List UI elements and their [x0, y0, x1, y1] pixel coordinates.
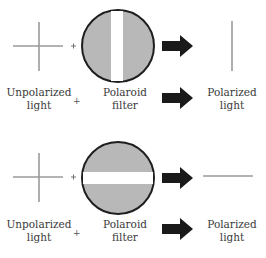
unpolarized-light-label: Unpolarized light	[4, 86, 74, 112]
label-line: light	[4, 99, 74, 112]
polarized-light-label: Polarized light	[199, 218, 265, 244]
plus-sign-icon	[71, 175, 76, 180]
label-line: Polarized	[199, 86, 265, 99]
polarized-light-label: Polarized light	[199, 86, 265, 112]
label-line: filter	[95, 231, 155, 244]
polaroid-filter-label: Polaroid filter	[95, 218, 155, 244]
label-line: light	[4, 231, 74, 244]
label-line: Unpolarized	[4, 86, 74, 99]
unpolarized-light-label: Unpolarized light	[4, 218, 74, 244]
polaroid-filter-vertical-icon	[82, 10, 154, 82]
arrow-right-icon	[162, 35, 193, 57]
arrow-right-icon	[162, 218, 193, 240]
panel-horizontal-filter: Unpolarized light + Polaroid filter Pola…	[0, 129, 266, 258]
plus-operator: +	[73, 228, 81, 238]
label-line: Polaroid	[95, 218, 155, 231]
unpolarized-light-icon	[13, 22, 63, 71]
panel-vertical-filter: Unpolarized light + Polaroid filter Pola…	[0, 0, 266, 129]
label-line: light	[199, 231, 265, 244]
arrow-right-icon	[162, 87, 193, 109]
label-line: Polaroid	[95, 86, 155, 99]
label-line: Polarized	[199, 218, 265, 231]
label-line: filter	[95, 99, 155, 112]
polaroid-filter-horizontal-icon	[82, 142, 154, 214]
label-line: Unpolarized	[4, 218, 74, 231]
arrow-right-icon	[162, 167, 193, 189]
polaroid-filter-label: Polaroid filter	[95, 86, 155, 112]
plus-operator: +	[73, 96, 81, 106]
unpolarized-light-icon	[13, 153, 63, 202]
plus-sign-icon	[71, 44, 76, 49]
label-line: light	[199, 99, 265, 112]
